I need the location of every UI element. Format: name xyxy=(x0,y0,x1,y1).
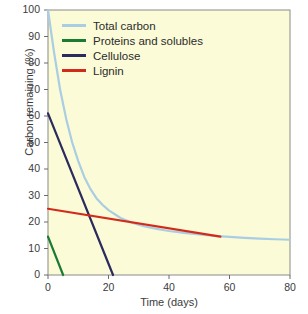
y-tick-label: 50 xyxy=(6,136,40,148)
y-tick-label: 20 xyxy=(6,215,40,227)
y-tick-label: 60 xyxy=(6,109,40,121)
legend-item: Lignin xyxy=(62,63,203,78)
legend-label: Proteins and solubles xyxy=(93,35,203,47)
legend-label: Total carbon xyxy=(93,20,156,32)
legend-swatch-icon xyxy=(62,24,86,27)
x-tick-label: 40 xyxy=(154,281,184,293)
y-tick-label: 90 xyxy=(6,30,40,42)
x-tick-label: 60 xyxy=(215,281,245,293)
x-axis-title: Time (days) xyxy=(48,296,290,308)
y-tick-label: 0 xyxy=(6,268,40,280)
chart-figure: Carbon remaining (%) Time (days) 0102030… xyxy=(0,0,308,314)
y-tick-label: 70 xyxy=(6,83,40,95)
y-tick-label: 30 xyxy=(6,189,40,201)
legend-label: Cellulose xyxy=(93,50,140,62)
chart-legend: Total carbonProteins and solublesCellulo… xyxy=(62,18,203,78)
legend-item: Cellulose xyxy=(62,48,203,63)
y-tick-label: 100 xyxy=(6,3,40,15)
legend-item: Proteins and solubles xyxy=(62,33,203,48)
legend-swatch-icon xyxy=(62,69,86,72)
x-tick-label: 80 xyxy=(275,281,305,293)
x-tick-label: 20 xyxy=(94,281,124,293)
x-tick-label: 0 xyxy=(33,281,63,293)
y-tick-label: 40 xyxy=(6,162,40,174)
legend-swatch-icon xyxy=(62,39,86,42)
y-tick-label: 10 xyxy=(6,242,40,254)
legend-item: Total carbon xyxy=(62,18,203,33)
y-tick-label: 80 xyxy=(6,56,40,68)
legend-label: Lignin xyxy=(93,65,124,77)
legend-swatch-icon xyxy=(62,54,86,57)
